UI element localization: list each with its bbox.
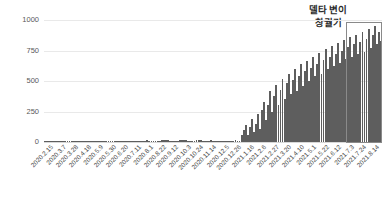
y-axis-tick-label: 250 xyxy=(0,108,39,116)
bar-series xyxy=(44,20,382,142)
y-axis-tick-label: 0 xyxy=(0,138,39,146)
x-axis-ticks: 2020.2.152020.3.72020.3.282020.4.182020.… xyxy=(44,144,382,196)
plot-area xyxy=(44,20,382,142)
y-axis-tick-label: 750 xyxy=(0,47,39,55)
annotation-line-1: 델타 변이 xyxy=(274,4,382,17)
bar xyxy=(380,41,382,142)
covid-daily-cases-bar-chart: 델타 변이 창궐기 02505007501000 2020.2.152020.3… xyxy=(0,0,388,197)
y-axis-tick-label: 500 xyxy=(0,77,39,85)
y-axis-tick-label: 1000 xyxy=(0,16,39,24)
